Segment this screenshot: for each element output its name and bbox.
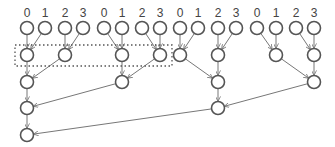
- edge-arrow: [33, 59, 60, 78]
- index-label: 2: [62, 6, 69, 20]
- reduction-tree-diagram: 0123012301230123: [0, 0, 335, 147]
- tree-node-t7: [154, 22, 167, 35]
- index-label: 2: [293, 6, 300, 20]
- tree-node-a1: [59, 49, 72, 62]
- tree-node-t4: [98, 22, 111, 35]
- index-label: 1: [195, 6, 202, 20]
- tree-node-a0: [21, 49, 34, 62]
- tree-node-c1: [212, 102, 225, 115]
- edge-arrow: [300, 33, 311, 49]
- tree-node-t11: [230, 22, 243, 35]
- edge-arrow: [69, 33, 80, 49]
- tree-node-b1: [116, 76, 129, 89]
- edge-arrow: [108, 33, 119, 49]
- index-label: 3: [233, 6, 240, 20]
- index-label: 0: [254, 6, 261, 20]
- tree-node-t12: [251, 22, 264, 35]
- index-label: 1: [273, 6, 280, 20]
- tree-node-t6: [136, 22, 149, 35]
- tree-node-a7: [308, 49, 321, 62]
- index-label: 2: [139, 6, 146, 20]
- tree-node-b3: [308, 76, 321, 89]
- edge-arrow: [31, 33, 42, 49]
- edge-arrow: [34, 84, 116, 106]
- tree-node-t0: [21, 22, 34, 35]
- tree-node-a4: [174, 49, 187, 62]
- edge-arrow: [222, 33, 233, 49]
- edge-arrow: [184, 33, 195, 49]
- edge-arrow: [281, 59, 308, 78]
- edge-arrow: [225, 84, 308, 106]
- index-label: 0: [177, 6, 184, 20]
- index-label: 1: [119, 6, 126, 20]
- tree-node-t3: [77, 22, 90, 35]
- index-label: 1: [42, 6, 49, 20]
- tree-node-t14: [290, 22, 303, 35]
- tree-node-t8: [174, 22, 187, 35]
- tree-node-c0: [21, 102, 34, 115]
- index-label: 0: [24, 6, 31, 20]
- tree-node-t9: [192, 22, 205, 35]
- edge-arrow: [34, 109, 212, 134]
- edge-arrow: [146, 33, 157, 49]
- tree-node-t13: [270, 22, 283, 35]
- index-label: 3: [157, 6, 164, 20]
- edge-arrow: [261, 33, 272, 49]
- tree-node-t10: [212, 22, 225, 35]
- index-label: 3: [311, 6, 318, 20]
- edges-layer: [27, 33, 314, 134]
- tree-node-a2: [116, 49, 129, 62]
- tree-node-a5: [212, 49, 225, 62]
- edge-arrow: [185, 59, 212, 78]
- tree-node-t15: [308, 22, 321, 35]
- index-label: 2: [215, 6, 222, 20]
- tree-node-d0: [21, 129, 34, 142]
- index-label: 0: [101, 6, 108, 20]
- edge-arrow: [128, 59, 155, 78]
- tree-node-t5: [116, 22, 129, 35]
- tree-node-t1: [39, 22, 52, 35]
- tree-node-a6: [270, 49, 283, 62]
- tree-node-a3: [154, 49, 167, 62]
- index-label: 3: [80, 6, 87, 20]
- tree-node-b2: [212, 76, 225, 89]
- tree-node-t2: [59, 22, 72, 35]
- labels-layer: 0123012301230123: [24, 6, 318, 20]
- tree-node-b0: [21, 76, 34, 89]
